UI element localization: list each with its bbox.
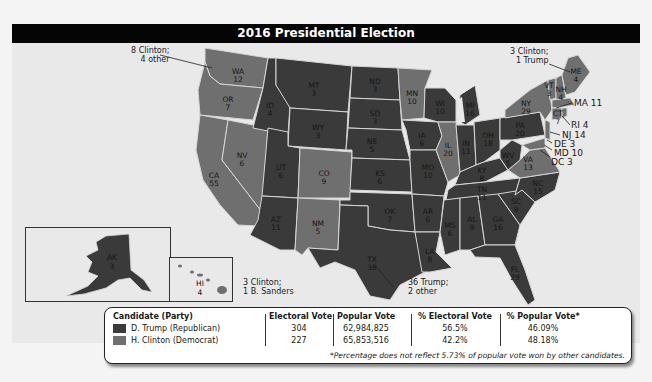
divider (265, 314, 266, 346)
label-dc: DC 3 (551, 158, 573, 167)
label-GA-ev: 16 (493, 223, 503, 232)
trump-pct-electoral: 56.5% (415, 324, 495, 333)
label-MT-ev: 3 (312, 89, 317, 98)
label-AR-ev: 6 (426, 215, 431, 224)
clinton-pct-electoral: 42.2% (415, 336, 495, 345)
label-TN-ev: 11 (477, 193, 487, 202)
callout-tx: 36 Trump; 2 other (408, 278, 448, 296)
label-TX-ev: 38 (367, 263, 377, 272)
clinton-popular: 65,853,516 (337, 336, 395, 345)
label-NY-ev: 29 (521, 107, 531, 116)
state-MD (522, 138, 545, 150)
label-OK-ev: 7 (388, 215, 393, 224)
label-WY-ev: 3 (316, 131, 321, 140)
legend-header-popular: Popular Vote (337, 312, 395, 321)
label-MO-ev: 10 (423, 171, 433, 180)
legend-header-pct-popular: % Popular Vote* (504, 312, 582, 321)
clinton-pct-popular: 48.18% (504, 336, 582, 345)
label-KS-ev: 6 (378, 177, 383, 186)
trump-popular: 62,984,825 (337, 324, 395, 333)
label-AK-ev: 3 (110, 262, 115, 271)
democrat-swatch (113, 336, 126, 345)
label-WV-ev: 5 (506, 159, 511, 168)
legend-col-pct-popular: % Popular Vote* 46.09% 48.18% (504, 312, 582, 345)
label-ND-ev: 3 (373, 85, 378, 94)
election-map-figure: WA12OR7CA55NV6ID4MT3WY3UT6AZ11CO9NM5ND3S… (0, 0, 652, 382)
callout-wa: 8 Clinton; 4 other (131, 46, 170, 64)
label-ma: MA 11 (574, 99, 602, 108)
legend-col-candidate: Candidate (Party) D. Trump (Republican) … (113, 312, 220, 345)
callout-hi-line1: 3 Clinton; (243, 278, 294, 287)
callout-tx-line2: 2 other (408, 287, 448, 296)
label-VA-ev: 13 (523, 163, 533, 172)
label-AZ-ev: 11 (271, 223, 281, 232)
legend-candidate-trump: D. Trump (Republican) (131, 324, 220, 333)
legend-col-pct-electoral: % Electoral Vote 56.5% 42.2% (415, 312, 495, 345)
legend-col-electoral: Electoral Vote 304 227 (269, 312, 329, 345)
hawaii-inset: HI 4 (169, 257, 233, 302)
label-CA-ev: 55 (209, 179, 219, 188)
legend-table: Candidate (Party) D. Trump (Republican) … (104, 307, 632, 364)
callout-me-line1: 3 Clinton; (510, 47, 549, 56)
label-WA-ev: 12 (233, 75, 243, 84)
label-AL-ev: 9 (470, 223, 475, 232)
republican-swatch (113, 324, 126, 333)
label-CT-ev: 7 (556, 117, 561, 126)
label-CO-ev: 9 (322, 177, 327, 186)
state-FL (470, 245, 535, 305)
label-AK-abbr: AK (107, 253, 118, 262)
callout-hi-line2: 1 B. Sanders (243, 287, 294, 296)
callout-me: 3 Clinton; 1 Trump (510, 47, 549, 65)
legend-row-trump: D. Trump (Republican) (113, 324, 220, 333)
legend-row-clinton: H. Clinton (Democrat) (113, 336, 220, 345)
clinton-electoral: 227 (269, 336, 329, 345)
divider (333, 314, 334, 346)
label-MS-ev: 6 (448, 229, 453, 238)
label-MN-ev: 10 (407, 97, 417, 106)
trump-electoral: 304 (269, 324, 329, 333)
label-WI-ev: 10 (435, 107, 445, 116)
label-ri: RI 4 (571, 121, 589, 130)
label-NH-ev: 4 (559, 93, 564, 102)
label-PA-ev: 20 (515, 129, 525, 138)
label-SD-ev: 3 (373, 117, 378, 126)
trump-pct-popular: 46.09% (504, 324, 582, 333)
label-IN-ev: 11 (461, 147, 471, 156)
alaska-inset: AK 3 (25, 227, 171, 302)
divider (500, 314, 501, 346)
label-IL-ev: 20 (443, 149, 453, 158)
callout-hi: 3 Clinton; 1 B. Sanders (243, 278, 294, 296)
alaska-map: AK 3 (26, 228, 170, 301)
label-OR-ev: 7 (226, 103, 231, 112)
label-NM-ev: 5 (316, 227, 321, 236)
label-HI-ev: 4 (198, 288, 203, 297)
state-NE (346, 128, 410, 160)
label-FL-ev: 29 (510, 273, 520, 282)
legend-header-electoral: Electoral Vote (269, 312, 329, 321)
legend-col-popular: Popular Vote 62,984,825 65,853,516 (337, 312, 395, 345)
label-HI-abbr: HI (196, 279, 204, 288)
page-title: 2016 Presidential Election (12, 24, 640, 43)
label-MI-ev: 16 (465, 109, 475, 118)
callout-me-line2: 1 Trump (510, 56, 549, 65)
callout-wa-line1: 8 Clinton; (131, 46, 170, 55)
callout-tx-line1: 36 Trump; (408, 278, 448, 287)
state-NJ (545, 120, 550, 140)
label-OH-ev: 18 (483, 139, 493, 148)
label-IA-ev: 6 (420, 139, 425, 148)
label-VT-ev: 3 (547, 89, 552, 98)
label-ID-ev: 4 (268, 109, 273, 118)
hawaii-map: HI 4 (170, 258, 232, 301)
legend-footnote: *Percentage does not reflect 5.73% of po… (330, 351, 625, 360)
label-UT-ev: 6 (279, 171, 284, 180)
label-KY-ev: 8 (480, 174, 485, 183)
divider (411, 314, 412, 346)
label-SC-ev: 9 (514, 205, 519, 214)
label-NV-ev: 6 (240, 159, 245, 168)
label-NE-ev: 5 (370, 145, 375, 154)
label-LA-ev: 8 (428, 255, 433, 264)
states-main (196, 48, 590, 305)
legend-candidate-clinton: H. Clinton (Democrat) (131, 336, 218, 345)
legend-header-candidate: Candidate (Party) (113, 312, 220, 321)
callout-wa-line2: 4 other (131, 55, 170, 64)
